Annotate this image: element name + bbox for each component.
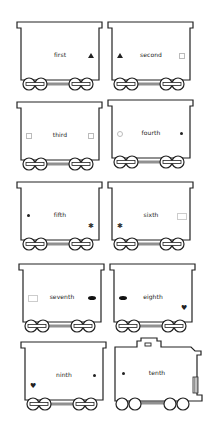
train-car-fifth: fifth ✱ bbox=[16, 180, 104, 252]
square-icon bbox=[88, 133, 94, 139]
train-car-first: first bbox=[16, 20, 104, 92]
rectangle-icon bbox=[177, 213, 183, 219]
train-car-second: second bbox=[107, 20, 195, 92]
dot-icon bbox=[121, 371, 127, 377]
heart-icon: ♥ bbox=[30, 373, 36, 379]
train-engine-tenth: tenth bbox=[113, 337, 201, 409]
square-icon bbox=[179, 53, 185, 59]
dot-icon bbox=[179, 131, 185, 137]
train-car-fourth: fourth bbox=[107, 98, 195, 170]
rectangle-icon bbox=[28, 295, 34, 301]
heart-icon: ♥ bbox=[181, 295, 187, 301]
circle-icon bbox=[117, 131, 123, 137]
train-car-ninth: ninth ♥ bbox=[20, 340, 108, 412]
dot-icon bbox=[26, 213, 32, 219]
triangle-icon bbox=[88, 53, 94, 59]
dot-icon bbox=[92, 373, 98, 379]
star-icon: ✱ bbox=[117, 213, 123, 219]
train-car-eighth: eighth ♥ bbox=[109, 262, 197, 334]
ellipse-icon bbox=[119, 295, 125, 301]
train-car-sixth: sixth ✱ bbox=[107, 180, 195, 252]
train-car-third: third bbox=[16, 100, 104, 172]
train-car-seventh: seventh bbox=[18, 262, 106, 334]
ellipse-icon bbox=[88, 295, 94, 301]
triangle-icon bbox=[117, 53, 123, 59]
star-icon: ✱ bbox=[88, 213, 94, 219]
square-icon bbox=[26, 133, 32, 139]
